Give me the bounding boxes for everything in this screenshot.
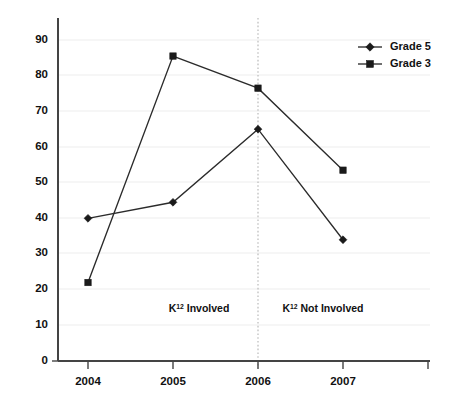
legend-label-grade-5: Grade 5 <box>390 40 431 52</box>
data-point-square <box>255 85 261 91</box>
y-tick-label: 80 <box>35 68 48 80</box>
x-tick-label: 2007 <box>330 375 356 387</box>
legend-label-grade-3: Grade 3 <box>390 57 431 69</box>
annotation-right-rest: Not Involved <box>298 302 364 314</box>
y-tick-label: 30 <box>35 246 48 258</box>
chart-container: 90 80 70 60 50 40 30 20 10 0 2004 2005 2… <box>0 0 450 408</box>
chart-background <box>0 0 450 408</box>
y-tick-label: 0 <box>42 354 48 366</box>
y-tick-label: 10 <box>35 318 48 330</box>
y-tick-label: 70 <box>35 104 48 116</box>
y-tick-label: 40 <box>35 211 48 223</box>
data-point-square <box>170 53 176 59</box>
data-point-square <box>340 167 346 173</box>
y-tick-label: 50 <box>35 175 48 187</box>
x-tick-label: 2004 <box>75 375 101 387</box>
x-tick-label: 2006 <box>245 375 271 387</box>
y-tick-label: 90 <box>35 33 48 45</box>
square-icon <box>367 61 374 68</box>
annotation-left-rest: Involved <box>184 302 230 314</box>
x-tick-label: 2005 <box>160 375 186 387</box>
y-tick-label: 20 <box>35 282 48 294</box>
data-point-square <box>85 279 91 285</box>
y-tick-label: 60 <box>35 140 48 152</box>
line-chart: 90 80 70 60 50 40 30 20 10 0 2004 2005 2… <box>0 0 450 408</box>
